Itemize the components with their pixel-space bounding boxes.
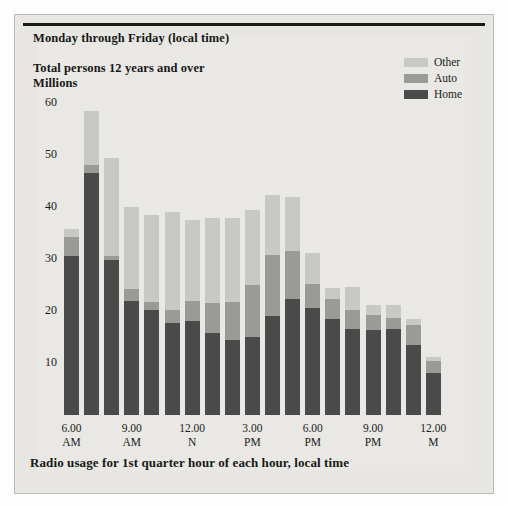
x-tick-meridiem: PM (229, 435, 275, 449)
bar-segment-auto (124, 289, 139, 300)
bar-stack (426, 357, 441, 415)
x-tick-meridiem: PM (290, 435, 336, 449)
bar-stack (265, 195, 280, 415)
bar-column (245, 0, 260, 415)
bar-column (64, 0, 79, 415)
bar-segment-auto (265, 255, 280, 316)
x-axis-tick-label: 9.00AM (109, 421, 155, 449)
bar-segment-other (245, 210, 260, 285)
bar-stack (386, 305, 401, 415)
bar-stack (225, 218, 240, 415)
bar-column (144, 0, 159, 415)
bar-segment-auto (245, 285, 260, 337)
bar-stack (345, 287, 360, 415)
bar-segment-other (124, 207, 139, 289)
bar-segment-other (366, 305, 381, 315)
x-tick-meridiem: PM (350, 435, 396, 449)
x-tick-time: 12.00 (169, 421, 215, 435)
x-tick-time: 12.00 (410, 421, 456, 435)
bar-stack (285, 197, 300, 415)
bar-segment-home (265, 316, 280, 415)
bar-segment-auto (205, 303, 220, 333)
bar-segment-auto (64, 237, 79, 257)
bar-stack (104, 158, 119, 415)
bar-stack (325, 288, 340, 415)
bar-segment-home (84, 173, 99, 415)
bar-segment-home (64, 256, 79, 415)
bar-column (406, 0, 421, 415)
bar-segment-other (285, 197, 300, 251)
bar-stack (305, 253, 320, 415)
bar-segment-other (104, 158, 119, 256)
x-tick-time: 9.00 (109, 421, 155, 435)
bar-segment-home (386, 329, 401, 415)
x-axis-tick-label: 6.00AM (49, 421, 95, 449)
bar-segment-other (64, 229, 79, 237)
bar-segment-auto (144, 302, 159, 310)
bar-segment-auto (165, 310, 180, 324)
bar-column (225, 0, 240, 415)
bar-series-group (0, 0, 508, 415)
x-tick-time: 3.00 (229, 421, 275, 435)
bar-segment-auto (305, 284, 320, 308)
x-tick-time: 6.00 (49, 421, 95, 435)
bar-stack (144, 215, 159, 415)
bar-segment-home (345, 329, 360, 415)
bar-column (285, 0, 300, 415)
bar-segment-other (386, 305, 401, 319)
bar-column (124, 0, 139, 415)
bar-segment-other (325, 288, 340, 298)
bar-column (165, 0, 180, 415)
bar-stack (84, 111, 99, 415)
bar-stack (406, 319, 421, 415)
bar-column (104, 0, 119, 415)
bar-column (305, 0, 320, 415)
bar-segment-auto (366, 315, 381, 330)
bar-segment-other (165, 212, 180, 310)
bar-segment-home (185, 321, 200, 415)
x-axis-tick-label: 12.00M (410, 421, 456, 449)
bar-segment-home (205, 333, 220, 415)
bar-stack (165, 212, 180, 415)
x-axis-tick-label: 9.00PM (350, 421, 396, 449)
x-tick-meridiem: N (169, 435, 215, 449)
bar-segment-auto (406, 325, 421, 346)
x-tick-time: 6.00 (290, 421, 336, 435)
bar-segment-auto (225, 302, 240, 340)
x-tick-time: 9.00 (350, 421, 396, 435)
bar-segment-other (345, 287, 360, 310)
bar-segment-auto (386, 318, 401, 328)
bar-segment-home (366, 330, 381, 415)
bar-segment-home (104, 260, 119, 415)
bar-segment-auto (325, 299, 340, 320)
bar-segment-auto (426, 361, 441, 373)
bar-stack (64, 229, 79, 415)
x-axis-tick-label: 6.00PM (290, 421, 336, 449)
bar-column (345, 0, 360, 415)
bar-segment-other (265, 195, 280, 255)
bar-stack (245, 210, 260, 415)
bar-column (325, 0, 340, 415)
bar-segment-other (205, 218, 220, 302)
bar-column (265, 0, 280, 415)
bar-segment-home (144, 310, 159, 415)
page-canvas: Monday through Friday (local time) Total… (0, 0, 508, 506)
bar-stack (124, 207, 139, 415)
bar-segment-other (305, 253, 320, 284)
bar-column (426, 0, 441, 415)
x-tick-meridiem: M (410, 435, 456, 449)
x-tick-meridiem: AM (109, 435, 155, 449)
bar-segment-home (165, 323, 180, 415)
bar-stack (185, 220, 200, 416)
bar-column (185, 0, 200, 415)
bar-segment-other (225, 218, 240, 301)
bar-segment-auto (345, 310, 360, 329)
bar-segment-auto (84, 165, 99, 173)
bar-segment-auto (285, 251, 300, 299)
bar-segment-auto (185, 301, 200, 322)
bar-segment-home (225, 340, 240, 415)
plot-area: 605040302010 6.00AM9.00AM12.00N3.00PM6.0… (0, 0, 508, 506)
x-axis-tick-label: 3.00PM (229, 421, 275, 449)
bar-segment-other (84, 111, 99, 166)
x-axis-tick-label: 12.00N (169, 421, 215, 449)
